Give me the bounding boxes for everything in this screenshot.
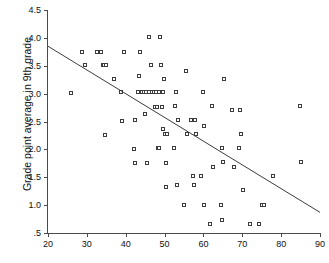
scatter-chart: Grade point average in 9th grade 4.54.03…	[0, 0, 329, 263]
x-tick	[165, 233, 166, 237]
x-tick-label: 40	[121, 240, 131, 249]
x-tick-label: 30	[82, 240, 92, 249]
y-tick-label: .5	[33, 229, 41, 238]
x-tick-label: 60	[198, 240, 208, 249]
x-tick-label: 80	[276, 240, 286, 249]
x-tick	[320, 233, 321, 237]
y-tick-label: 2.5	[28, 118, 41, 127]
y-tick-label: 1.0	[28, 201, 41, 210]
x-tick	[203, 233, 204, 237]
y-tick-label: 1.5	[28, 173, 41, 182]
x-tick-label: 70	[237, 240, 247, 249]
y-tick-label: 3.0	[28, 90, 41, 99]
x-tick-label: 20	[43, 240, 53, 249]
y-tick-label: 2.0	[28, 145, 41, 154]
x-tick	[87, 233, 88, 237]
y-tick-label: 4.0	[28, 34, 41, 43]
x-tick	[281, 233, 282, 237]
regression-line	[48, 10, 320, 233]
x-tick-label: 90	[315, 240, 325, 249]
y-tick-label: 3.5	[28, 62, 41, 71]
y-tick-label: 4.5	[28, 6, 41, 15]
x-tick-label: 50	[160, 240, 170, 249]
x-tick	[126, 233, 127, 237]
plot-area: 4.54.03.53.02.52.01.51.0.5 2030405060708…	[47, 10, 320, 234]
x-tick	[242, 233, 243, 237]
y-axis-title: Grade point average in 9th grade	[21, 14, 33, 214]
x-tick	[48, 233, 49, 237]
